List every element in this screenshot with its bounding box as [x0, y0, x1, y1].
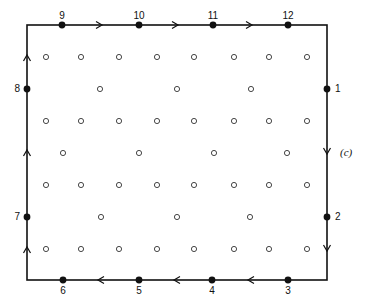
lattice-site-circle — [231, 54, 236, 59]
lattice-site-circle — [154, 246, 159, 251]
point-5-label: 5 — [136, 285, 142, 296]
point-6-dot — [60, 277, 67, 284]
point-10-label: 10 — [133, 10, 145, 21]
lattice-site-circle — [78, 182, 83, 187]
point-8-label: 8 — [14, 83, 20, 94]
lattice-site-circle — [60, 150, 65, 155]
lattice-site-circle — [154, 182, 159, 187]
lattice-site-circle — [231, 118, 236, 123]
lattice-site-circle — [116, 246, 121, 251]
point-8-dot — [24, 86, 31, 93]
lattice-site-circle — [97, 86, 102, 91]
lattice-site-circle — [78, 118, 83, 123]
point-3-label: 3 — [285, 285, 291, 296]
lattice-site-circle — [136, 150, 141, 155]
lattice-site-circle — [78, 54, 83, 59]
lattice-site-circle — [247, 214, 252, 219]
loop-lattice-diagram: 123456789101112 (c) — [0, 0, 375, 304]
lattice-site-circle — [266, 54, 271, 59]
lattice-site-circle — [304, 246, 309, 251]
point-2-label: 2 — [335, 211, 341, 222]
lattice-site-circle — [154, 54, 159, 59]
current-loop-path — [27, 25, 327, 280]
point-12-dot — [285, 22, 292, 29]
lattice-site-circle — [43, 118, 48, 123]
lattice-site-circle — [266, 182, 271, 187]
lattice-site-circle — [304, 182, 309, 187]
lattice-site-circle — [43, 182, 48, 187]
lattice-site-circle — [231, 246, 236, 251]
lattice-site-circle — [154, 118, 159, 123]
point-9-dot — [59, 22, 66, 29]
point-2-dot — [324, 214, 331, 221]
point-11-dot — [210, 22, 217, 29]
lattice-site-circle — [266, 118, 271, 123]
lattice-site-circle — [174, 86, 179, 91]
lattice-site-circle — [304, 54, 309, 59]
point-7-dot — [24, 214, 31, 221]
lattice-site-circle — [284, 150, 289, 155]
point-7-label: 7 — [14, 211, 20, 222]
point-5-dot — [136, 277, 143, 284]
lattice-site-circle — [78, 246, 83, 251]
point-1-label: 1 — [335, 83, 341, 94]
point-11-label: 11 — [208, 10, 219, 21]
panel-label: (c) — [340, 146, 353, 159]
lattice-site-circle — [266, 246, 271, 251]
lattice-site-circle — [304, 118, 309, 123]
lattice-site-circle — [43, 54, 48, 59]
lattice-site-circle — [116, 54, 121, 59]
lattice-site-circle — [98, 214, 103, 219]
lattice-site-circle — [231, 182, 236, 187]
lattice-site-circle — [116, 182, 121, 187]
lattice-site-circle — [116, 118, 121, 123]
lattice-site-circle — [191, 54, 196, 59]
point-3-dot — [285, 277, 292, 284]
point-6-label: 6 — [60, 285, 66, 296]
point-10-dot — [136, 22, 143, 29]
lattice-site-circle — [191, 246, 196, 251]
lattice-site-circle — [191, 182, 196, 187]
lattice-site-circle — [43, 246, 48, 251]
lattice-site-circle — [174, 214, 179, 219]
point-1-dot — [324, 86, 331, 93]
lattice-sites — [43, 54, 309, 251]
lattice-site-circle — [248, 86, 253, 91]
lattice-site-circle — [191, 118, 196, 123]
point-9-label: 9 — [59, 10, 65, 21]
lattice-site-circle — [211, 150, 216, 155]
point-4-label: 4 — [209, 285, 215, 296]
point-4-dot — [209, 277, 216, 284]
point-12-label: 12 — [282, 10, 294, 21]
